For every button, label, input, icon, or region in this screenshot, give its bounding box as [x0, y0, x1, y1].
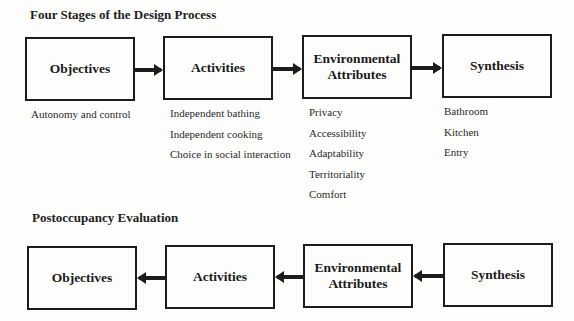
list-item: Autonomy and control [31, 104, 131, 125]
stage-label-line-2: Attributes [328, 276, 387, 292]
stage-label: Synthesis [471, 267, 525, 283]
poe-activities-box: Activities [165, 245, 275, 309]
objectives-items: Autonomy and control [31, 104, 131, 125]
list-item: Independent bathing [170, 103, 291, 124]
list-item: Independent cooking [170, 124, 291, 145]
list-item: Kitchen [444, 122, 488, 143]
stage-label-line-1: Environmental [315, 260, 402, 276]
stage-label: Activities [191, 60, 245, 76]
list-item: Adaptability [309, 143, 366, 164]
arrow-right-icon [273, 67, 300, 71]
stage-environmental-attributes-box: Environmental Attributes [302, 35, 412, 99]
list-item: Comfort [309, 184, 366, 205]
list-item: Accessibility [309, 123, 366, 144]
arrow-left-icon [415, 274, 443, 278]
poe-objectives-box: Objectives [27, 246, 137, 310]
stage-label: Activities [193, 269, 247, 285]
stage-label: Synthesis [470, 58, 524, 74]
list-item: Privacy [309, 102, 366, 123]
list-item: Entry [444, 142, 488, 163]
arrow-right-icon [135, 68, 161, 72]
stage-label: Objectives [52, 270, 113, 286]
design-process-title: Four Stages of the Design Process [30, 7, 216, 23]
stage-label: Objectives [50, 61, 111, 77]
list-item: Territoriality [309, 164, 366, 185]
activities-items: Independent bathing Independent cooking … [170, 103, 291, 165]
poe-synthesis-box: Synthesis [443, 243, 553, 307]
environmental-attributes-items: Privacy Accessibility Adaptability Terri… [309, 102, 366, 205]
stage-synthesis-box: Synthesis [442, 34, 552, 98]
postoccupancy-title: Postoccupancy Evaluation [32, 210, 178, 226]
list-item: Choice in social interaction [170, 144, 291, 165]
arrow-right-icon [412, 66, 440, 70]
stage-label-line-1: Environmental [314, 51, 401, 67]
stage-objectives-box: Objectives [25, 37, 135, 101]
list-item: Bathroom [444, 101, 488, 122]
stage-activities-box: Activities [163, 36, 273, 100]
arrow-left-icon [139, 276, 165, 280]
stage-label-line-2: Attributes [327, 67, 386, 83]
synthesis-items: Bathroom Kitchen Entry [444, 101, 488, 163]
poe-environmental-attributes-box: Environmental Attributes [303, 244, 413, 308]
arrow-left-icon [277, 275, 303, 279]
